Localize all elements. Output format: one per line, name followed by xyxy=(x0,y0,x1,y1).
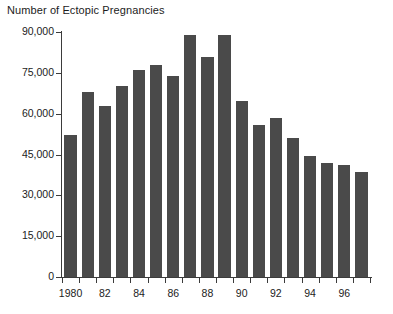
y-axis-tick xyxy=(56,155,62,156)
x-axis-tick xyxy=(62,278,63,283)
y-axis-tick xyxy=(56,73,62,74)
bar-1991 xyxy=(253,125,265,277)
ectopic-pregnancies-bar-chart: Number of Ectopic Pregnancies 015,00030,… xyxy=(0,0,393,314)
x-axis-tick-label: 84 xyxy=(133,287,145,299)
y-axis-tick-label: 45,000 xyxy=(2,149,54,160)
x-axis-tick-label: 82 xyxy=(99,287,111,299)
x-axis-tick xyxy=(130,278,131,283)
x-axis-tick-label: 94 xyxy=(304,287,316,299)
x-axis-tick-label: 96 xyxy=(338,287,350,299)
x-axis-tick xyxy=(199,278,200,283)
y-axis-tick xyxy=(56,236,62,237)
bar-1985 xyxy=(150,65,162,277)
bar-1988 xyxy=(201,57,213,278)
y-axis-tick-label: 75,000 xyxy=(2,67,54,78)
x-axis-tick xyxy=(302,278,303,283)
y-axis-tick xyxy=(56,277,62,278)
x-axis-tick-label: 88 xyxy=(202,287,214,299)
y-axis-tick-label: 15,000 xyxy=(2,230,54,241)
x-axis-tick xyxy=(284,278,285,283)
bars-layer xyxy=(62,32,370,277)
x-axis-tick xyxy=(336,278,337,283)
y-axis-tick xyxy=(56,114,62,115)
x-axis-tick xyxy=(250,278,251,283)
bar-1992 xyxy=(270,118,282,277)
bar-1989 xyxy=(218,35,230,277)
x-axis-tick-label: 86 xyxy=(167,287,179,299)
y-axis-tick-label: 60,000 xyxy=(2,108,54,119)
y-axis-tick-label: 0 xyxy=(2,271,54,282)
bar-1996 xyxy=(338,165,350,277)
bar-1994 xyxy=(304,156,316,277)
x-axis-tick xyxy=(353,278,354,283)
x-axis-tick xyxy=(165,278,166,283)
bar-1981 xyxy=(82,92,94,277)
bar-1980 xyxy=(64,135,76,277)
x-axis-tick xyxy=(233,278,234,283)
x-axis-tick xyxy=(79,278,80,283)
x-axis-tick xyxy=(216,278,217,283)
y-axis-tick-label: 90,000 xyxy=(2,26,54,37)
x-axis-tick-label: 1980 xyxy=(59,287,82,299)
bar-1982 xyxy=(99,106,111,278)
y-axis-tick xyxy=(56,32,62,33)
x-axis-tick xyxy=(113,278,114,283)
y-axis-tick xyxy=(56,195,62,196)
bar-1986 xyxy=(167,76,179,277)
x-axis-tick-label: 90 xyxy=(236,287,248,299)
bar-1984 xyxy=(133,70,145,277)
x-axis-tick-label: 92 xyxy=(270,287,282,299)
y-axis-labels: 015,00030,00045,00060,00075,00090,000 xyxy=(0,0,54,314)
x-axis-tick xyxy=(319,278,320,283)
x-axis-tick xyxy=(182,278,183,283)
x-axis-tick xyxy=(148,278,149,283)
bar-1993 xyxy=(287,138,299,277)
x-axis-tick xyxy=(96,278,97,283)
x-axis-tick xyxy=(267,278,268,283)
bar-1987 xyxy=(184,35,196,277)
x-axis-tick xyxy=(370,278,371,283)
bar-1997 xyxy=(355,172,367,277)
y-axis-tick-label: 30,000 xyxy=(2,189,54,200)
bar-1983 xyxy=(116,86,128,277)
bar-1990 xyxy=(236,101,248,277)
bar-1995 xyxy=(321,163,333,277)
